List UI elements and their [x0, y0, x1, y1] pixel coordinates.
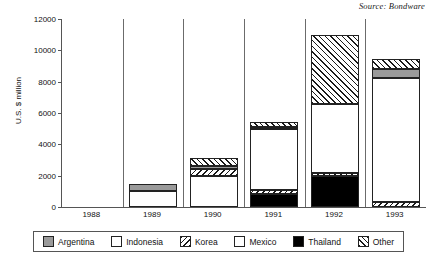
bar-segment-mexico[interactable] [372, 78, 420, 202]
y-axis-tick [58, 176, 62, 177]
bar-1993[interactable] [372, 59, 420, 207]
category-separator [183, 19, 184, 207]
y-axis-tick-label: 10000 [34, 46, 56, 55]
legend-label-thailand: Thailand [308, 237, 341, 247]
legend-swatch-indonesia-icon [111, 236, 122, 247]
category-separator [244, 19, 245, 207]
legend-swatch-mexico-icon [234, 236, 245, 247]
y-axis-tick [58, 19, 62, 20]
bar-1989[interactable] [129, 184, 177, 208]
y-axis-tick [58, 113, 62, 114]
legend-swatch-korea-icon [180, 236, 191, 247]
y-axis-tick [58, 144, 62, 145]
legend-label-argentina: Argentina [58, 237, 94, 247]
bar-segment-other[interactable] [372, 59, 420, 69]
bar-segment-thailand[interactable] [311, 176, 359, 207]
legend-item-argentina[interactable]: Argentina [43, 236, 94, 247]
x-axis-label-1989: 1989 [122, 210, 182, 219]
legend-item-korea[interactable]: Korea [180, 236, 218, 247]
bar-segment-mexico[interactable] [311, 104, 359, 172]
y-axis-title: U.S. $ million [14, 51, 23, 151]
legend-item-other[interactable]: Other [358, 236, 394, 247]
legend-item-thailand[interactable]: Thailand [293, 236, 341, 247]
category-separator [305, 19, 306, 207]
x-axis-tick-labels: 198819891990199119921993 [61, 210, 426, 224]
chart-legend: ArgentinaIndonesiaKoreaMexicoThailandOth… [33, 231, 404, 252]
plot-inner: 020004000600080001000012000 [62, 19, 426, 207]
legend-label-indonesia: Indonesia [126, 237, 163, 247]
plot-area: 020004000600080001000012000 [61, 19, 426, 208]
source-note: Source: Bondware [359, 1, 425, 11]
category-separator [365, 19, 366, 207]
legend-swatch-other-icon [358, 236, 369, 247]
legend-item-indonesia[interactable]: Indonesia [111, 236, 163, 247]
x-axis-label-1990: 1990 [183, 210, 243, 219]
y-axis-tick-label: 4000 [38, 140, 56, 149]
bar-segment-mexico[interactable] [250, 129, 298, 190]
bar-1990[interactable] [190, 158, 238, 207]
bar-segment-argentina[interactable] [372, 69, 420, 78]
y-axis-tick-label: 12000 [34, 15, 56, 24]
bar-1992[interactable] [311, 35, 359, 207]
bar-segment-korea[interactable] [250, 190, 298, 195]
y-axis-tick [58, 207, 62, 208]
legend-item-mexico[interactable]: Mexico [234, 236, 276, 247]
y-axis-tick-label: 6000 [38, 109, 56, 118]
bar-segment-other[interactable] [250, 122, 298, 127]
bar-segment-korea[interactable] [311, 173, 359, 177]
bar-segment-thailand[interactable] [250, 194, 298, 207]
legend-label-other: Other [373, 237, 394, 247]
x-axis-label-1988: 1988 [61, 210, 121, 219]
legend-swatch-argentina-icon [43, 236, 54, 247]
bar-1991[interactable] [250, 122, 298, 207]
x-axis-label-1992: 1992 [304, 210, 364, 219]
y-axis-tick-label: 2000 [38, 171, 56, 180]
x-axis-label-1991: 1991 [243, 210, 303, 219]
legend-label-mexico: Mexico [249, 237, 276, 247]
bar-segment-korea[interactable] [372, 202, 420, 207]
bar-segment-indonesia[interactable] [190, 176, 238, 207]
legend-swatch-thailand-icon [293, 236, 304, 247]
bar-segment-argentina[interactable] [190, 166, 238, 168]
y-axis-tick [58, 82, 62, 83]
bar-segment-other[interactable] [190, 158, 238, 166]
stacked-bar-chart-figure: Source: Bondware U.S. $ million 02000400… [0, 0, 431, 259]
y-axis-tick [58, 50, 62, 51]
bar-segment-korea[interactable] [190, 169, 238, 176]
x-axis-label-1993: 1993 [365, 210, 425, 219]
legend-label-korea: Korea [195, 237, 218, 247]
bar-segment-argentina[interactable] [129, 184, 177, 192]
category-separator [123, 19, 124, 207]
y-axis-tick-label: 8000 [38, 77, 56, 86]
bar-segment-other[interactable] [311, 35, 359, 104]
y-axis-tick-label: 0 [52, 203, 56, 212]
bar-segment-indonesia[interactable] [129, 191, 177, 207]
